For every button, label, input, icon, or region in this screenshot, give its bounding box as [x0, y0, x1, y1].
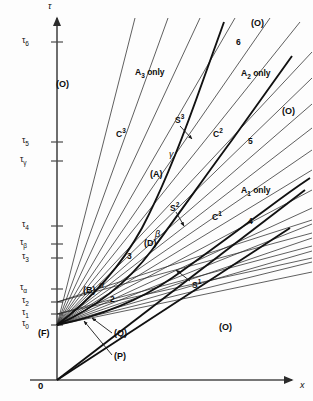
curve-label-s2: S2 [170, 202, 179, 212]
curve-label-c1: C1 [212, 211, 222, 221]
region-label-f: (F) [38, 329, 50, 338]
curve-label-s3: S3 [175, 114, 184, 124]
region-label-o-right: (O) [282, 107, 295, 116]
y-axis [51, 18, 63, 380]
point-number-4: 4 [248, 217, 253, 226]
s-curves [57, 22, 310, 325]
point-number-3: 3 [127, 252, 132, 261]
region-label-d: (D) [144, 239, 157, 248]
y-tick-label-tau0: τ0 [22, 319, 29, 330]
point-number-5: 5 [248, 137, 253, 146]
y-tick-label-tau6: τ6 [22, 36, 29, 47]
curve-label-a1-only: A1 only [241, 186, 271, 197]
annotation-leaders [84, 126, 192, 355]
y-tick-label-taualpha: τα [20, 283, 27, 294]
region-label-o-top-right: (O) [251, 19, 264, 28]
curve-label-a3-only: A3 only [135, 68, 165, 79]
region-label-q: (Q) [114, 329, 127, 338]
point-number-2: 2 [110, 295, 115, 304]
point-number-6: 6 [236, 38, 241, 47]
y-tick-label-taugamma: τγ [20, 155, 27, 166]
curve-label-c3: C3 [116, 128, 126, 138]
tau-x-phase-diagram: τ6 τ5 τγ τ4 τβ τ3 τα τ2 τ1 τ0 τ x 0 (O) … [0, 0, 313, 401]
region-label-o-upper-left: (O) [56, 80, 69, 89]
curve-label-c2: C2 [213, 128, 223, 138]
y-tick-label-tau3: τ3 [22, 252, 29, 263]
greek-mark-gamma: γ [169, 150, 174, 159]
greek-mark-beta: β [155, 230, 160, 239]
region-label-o-lower-right: (O) [219, 323, 232, 332]
curve-label-a2-only: A2 only [241, 69, 271, 80]
y-tick-label-tau4: τ4 [22, 220, 29, 231]
region-label-a: (A) [150, 170, 163, 179]
diagram-canvas [0, 0, 313, 401]
greek-mark-alpha: α [99, 281, 104, 290]
x-axis-label: x [300, 381, 305, 390]
origin-label: 0 [38, 381, 43, 391]
y-tick-label-tau2: τ2 [22, 296, 29, 307]
y-tick-label-taubeta: τβ [20, 238, 27, 249]
region-label-b: (B) [83, 286, 96, 295]
region-label-p: (P) [114, 352, 126, 361]
ray-fan-from-tau0 [57, 18, 312, 325]
y-tick-label-tau5: τ5 [22, 136, 29, 147]
y-axis-label: τ [48, 2, 51, 11]
ray-fan-secondary [57, 220, 312, 314]
curve-label-s1: S1 [192, 279, 201, 289]
